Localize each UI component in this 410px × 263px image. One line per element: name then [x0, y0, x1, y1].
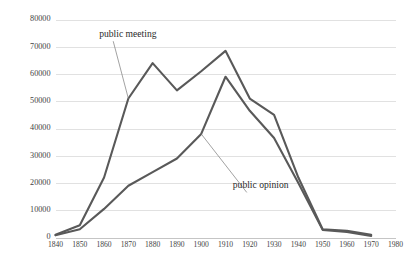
- x-tick-label: 1900: [194, 240, 209, 249]
- line-chart: 0100002000030000400005000060000700008000…: [0, 0, 410, 263]
- x-tick-label: 1850: [72, 240, 87, 249]
- series-line-public-meeting: [56, 51, 372, 235]
- x-tick-label: 1890: [169, 240, 184, 249]
- y-tick-label: 80000: [30, 14, 50, 23]
- chart-canvas: 0100002000030000400005000060000700008000…: [0, 0, 410, 263]
- annotation-leader-line: [113, 41, 128, 98]
- x-tick-label: 1960: [339, 240, 354, 249]
- y-tick-label: 10000: [30, 205, 50, 214]
- x-tick-label: 1860: [96, 240, 111, 249]
- x-tick-label: 1880: [145, 240, 160, 249]
- x-tick-label: 1930: [266, 240, 281, 249]
- annotation-label-public-meeting: public meeting: [99, 28, 156, 39]
- y-tick-label: 30000: [30, 151, 50, 160]
- y-tick-label: 70000: [30, 42, 50, 51]
- x-tick-label: 1840: [48, 240, 63, 249]
- y-tick-label: 40000: [30, 123, 50, 132]
- x-tick-label: 1920: [242, 240, 257, 249]
- y-tick-label: 60000: [30, 69, 50, 78]
- y-tick-label: 50000: [30, 96, 50, 105]
- x-tick-label: 1910: [218, 240, 233, 249]
- x-tick-label: 1870: [121, 240, 136, 249]
- y-tick-label: 20000: [30, 178, 50, 187]
- x-tick-label: 1950: [315, 240, 330, 249]
- x-tick-label: 1980: [388, 240, 403, 249]
- annotation-label-public-opinion: public opinion: [233, 179, 289, 190]
- x-tick-label: 1970: [364, 240, 379, 249]
- x-tick-label: 1940: [291, 240, 306, 249]
